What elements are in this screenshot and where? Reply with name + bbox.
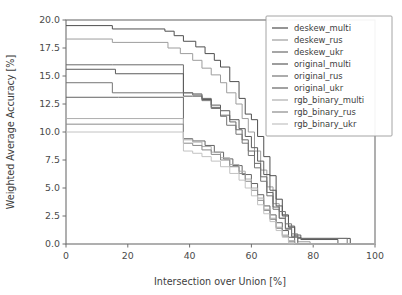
legend-label-deskew-ukr[interactable]: deskew_ukr (294, 47, 344, 57)
y-tick-label: 5.0 (45, 182, 60, 193)
series-line-rgb-binary-ukr (66, 132, 375, 244)
y-tick-label: 12.5 (39, 98, 60, 109)
x-tick-label: 60 (245, 250, 257, 261)
x-tick-label: 20 (122, 250, 134, 261)
legend-label-deskew-multi[interactable]: deskew_multi (294, 23, 351, 33)
chart-legend[interactable]: deskew_multideskew_rusdeskew_ukroriginal… (266, 16, 392, 136)
y-tick-label: 7.5 (45, 154, 60, 165)
x-tick-label: 40 (184, 250, 196, 261)
y-tick-label: 15.0 (39, 70, 60, 81)
y-tick-label: 20.0 (39, 14, 60, 25)
legend-label-rgb-binary-rus[interactable]: rgb_binary_rus (294, 107, 356, 117)
x-axis-label: Intersection over Union [%] (154, 276, 286, 287)
y-axis-label: Weighted Average Accuracy [%] (5, 55, 16, 209)
legend-label-original-rus[interactable]: original_rus (294, 71, 343, 81)
y-tick-label: 0.0 (45, 238, 60, 249)
y-axis-ticks: 0.02.55.07.510.012.515.017.520.0 (39, 14, 66, 249)
x-tick-label: 100 (366, 250, 384, 261)
legend-label-deskew-rus[interactable]: deskew_rus (294, 35, 343, 45)
y-tick-label: 17.5 (39, 42, 60, 53)
x-axis-ticks: 020406080100 (63, 244, 384, 261)
x-tick-label: 0 (63, 250, 69, 261)
series-line-rgb-binary-multi (66, 119, 375, 244)
legend-label-original-multi[interactable]: original_multi (294, 59, 351, 69)
legend-label-rgb-binary-ukr[interactable]: rgb_binary_ukr (294, 119, 357, 129)
x-tick-label: 80 (307, 250, 319, 261)
y-tick-label: 10.0 (39, 126, 60, 137)
chart-figure: 020406080100 0.02.55.07.510.012.515.017.… (0, 0, 402, 295)
series-line-rgb-binary-rus (66, 124, 375, 244)
line-chart-svg: 020406080100 0.02.55.07.510.012.515.017.… (0, 0, 402, 295)
y-tick-label: 2.5 (45, 210, 60, 221)
legend-label-original-ukr[interactable]: original_ukr (294, 83, 344, 93)
legend-label-rgb-binary-multi[interactable]: rgb_binary_multi (294, 95, 364, 105)
